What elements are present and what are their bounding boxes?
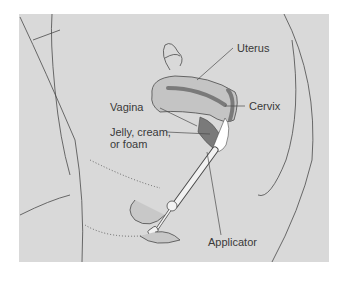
label-applicator: Applicator bbox=[208, 236, 257, 248]
buttock-outline bbox=[272, 14, 313, 262]
uterus-shape bbox=[152, 76, 238, 122]
illustration-panel bbox=[19, 14, 329, 262]
body-outline bbox=[51, 14, 70, 175]
label-jelly-line1: Jelly, cream, bbox=[110, 126, 171, 138]
label-jelly-line2: or foam bbox=[110, 138, 147, 150]
label-vagina: Vagina bbox=[110, 101, 143, 113]
applicator-shape bbox=[147, 150, 215, 236]
label-uterus: Uterus bbox=[237, 42, 269, 54]
inner-curve bbox=[258, 40, 296, 196]
thigh-outline bbox=[20, 17, 83, 262]
label-cervix: Cervix bbox=[249, 100, 280, 112]
anatomy-drawing bbox=[19, 14, 329, 262]
